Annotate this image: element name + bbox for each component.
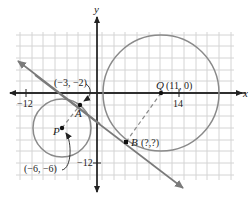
tick-label-x-neg12: −12 <box>17 98 33 109</box>
label-a-name: A <box>74 107 82 119</box>
label-p-coords: (−6, −6) <box>24 163 57 175</box>
tick-label-y-neg12: −12 <box>77 157 93 168</box>
point-q <box>159 91 163 95</box>
diagram-stage: x y −12 14 −12 Q (11, 0) (−3, −2) A P (−… <box>0 0 252 199</box>
point-p <box>60 126 64 130</box>
label-q-name: Q <box>156 79 164 91</box>
radius-qb <box>126 93 161 142</box>
grid <box>16 32 234 180</box>
label-b-coords: (?,?) <box>141 137 159 149</box>
x-axis-label: x <box>242 87 248 99</box>
y-axis-label: y <box>93 3 99 15</box>
label-b-name: B <box>131 136 138 148</box>
label-q-coords: (11, 0) <box>166 80 192 92</box>
coordinate-diagram: x y −12 14 −12 Q (11, 0) (−3, −2) A P (−… <box>0 0 252 199</box>
label-p-name: P <box>52 125 60 137</box>
point-b <box>124 140 128 144</box>
tick-label-x-14: 14 <box>173 98 183 109</box>
label-a-coords: (−3, −2) <box>54 77 87 89</box>
